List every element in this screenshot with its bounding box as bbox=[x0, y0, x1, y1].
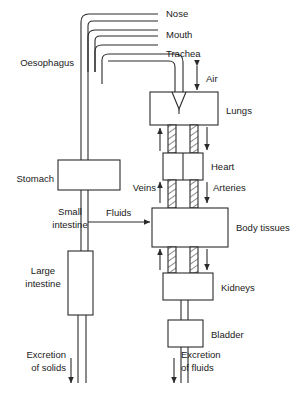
label-excretion-fluids-1: Excretion bbox=[181, 349, 221, 360]
label-large-intestine-2: intestine bbox=[25, 278, 60, 289]
large-intestine-box bbox=[68, 251, 93, 315]
oesophagus-tube bbox=[81, 72, 88, 160]
mouth-tube bbox=[88, 30, 158, 72]
vein-vessel-lower bbox=[168, 247, 176, 273]
label-bladder: Bladder bbox=[211, 329, 244, 340]
body-tissues-box bbox=[152, 208, 228, 247]
label-small-intestine-2: intestine bbox=[52, 219, 87, 230]
kidneys-box bbox=[163, 273, 213, 300]
label-mouth: Mouth bbox=[166, 29, 192, 40]
label-kidneys: Kidneys bbox=[221, 282, 255, 293]
label-lungs: Lungs bbox=[226, 105, 252, 116]
body-systems-diagram: Nose Mouth Trachea Oesophagus Air Lungs … bbox=[0, 0, 301, 393]
label-excretion-solids-1: Excretion bbox=[26, 349, 66, 360]
artery-vessel-lower bbox=[190, 247, 198, 273]
ureter-tube bbox=[181, 300, 188, 320]
artery-vessel-upper bbox=[190, 180, 198, 208]
bladder-box bbox=[168, 320, 203, 347]
label-veins: Veins bbox=[133, 182, 156, 193]
label-arteries: Arteries bbox=[213, 182, 246, 193]
label-oesophagus: Oesophagus bbox=[20, 57, 74, 68]
label-excretion-solids-2: of solids bbox=[31, 362, 66, 373]
label-stomach: Stomach bbox=[17, 173, 55, 184]
label-body-tissues: Body tissues bbox=[236, 222, 290, 233]
label-nose: Nose bbox=[166, 8, 188, 19]
label-fluids: Fluids bbox=[106, 207, 132, 218]
pulmonary-artery-vessel bbox=[190, 125, 198, 153]
stomach-box bbox=[58, 160, 120, 190]
label-air: Air bbox=[206, 73, 218, 84]
label-small-intestine-1: Small bbox=[58, 206, 82, 217]
label-excretion-fluids-2: of fluids bbox=[181, 362, 214, 373]
nose-tube bbox=[81, 14, 158, 72]
label-large-intestine-1: Large bbox=[31, 265, 55, 276]
vein-vessel-upper bbox=[168, 180, 176, 208]
label-heart: Heart bbox=[211, 161, 235, 172]
pulmonary-vein-vessel bbox=[168, 125, 176, 153]
rectum-tube bbox=[78, 315, 86, 383]
label-trachea: Trachea bbox=[166, 48, 201, 59]
